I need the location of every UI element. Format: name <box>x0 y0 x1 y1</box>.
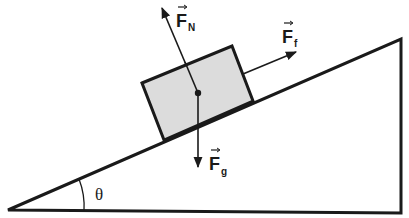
svg-text:F: F <box>209 154 220 174</box>
friction-force-label: F f <box>282 21 298 49</box>
gravity-force-label: F g <box>209 148 227 177</box>
inclined-plane-diagram: θ F N F f F g <box>0 0 409 218</box>
center-of-mass-dot <box>195 90 201 96</box>
angle-arc <box>79 179 84 211</box>
svg-text:g: g <box>221 166 227 177</box>
svg-text:N: N <box>188 22 195 33</box>
normal-force-label: F N <box>176 5 195 33</box>
theta-label: θ <box>95 185 103 204</box>
svg-text:F: F <box>176 11 187 31</box>
svg-text:F: F <box>282 27 293 47</box>
friction-force-arrow <box>243 52 296 74</box>
svg-text:f: f <box>294 38 298 49</box>
